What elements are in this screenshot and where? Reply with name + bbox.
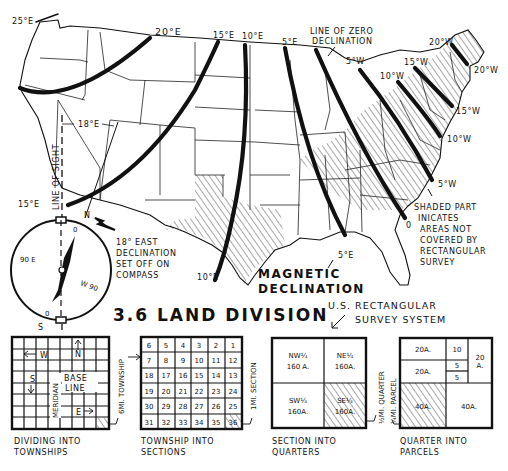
svg-text:33: 33 bbox=[179, 419, 188, 427]
svg-text:26: 26 bbox=[212, 403, 221, 411]
label-10w-right: 10°W bbox=[447, 135, 472, 144]
parcel-e: 5 bbox=[455, 374, 459, 382]
label-e: E bbox=[76, 408, 82, 417]
parcel-a: 20A. bbox=[415, 346, 431, 354]
svg-text:23: 23 bbox=[212, 388, 221, 396]
compass-note-4: COMPASS bbox=[116, 271, 159, 280]
svg-text:INICATES: INICATES bbox=[418, 214, 459, 223]
label-20w-top: 20°W bbox=[429, 38, 454, 47]
svg-text:SHADED PART: SHADED PART bbox=[414, 203, 477, 212]
svg-text:13: 13 bbox=[229, 372, 238, 380]
svg-text:21: 21 bbox=[179, 388, 188, 396]
parcel-d: 5 bbox=[455, 362, 459, 370]
svg-text:22: 22 bbox=[195, 388, 204, 396]
label-10e-bottom: 10°E bbox=[197, 273, 219, 282]
svg-text:28: 28 bbox=[179, 403, 188, 411]
label-s: S bbox=[30, 375, 36, 384]
svg-text:SURVEY: SURVEY bbox=[420, 258, 455, 267]
caption-parcels-1: QUARTER INTO bbox=[400, 437, 467, 446]
label-15e-top: 15°E bbox=[213, 31, 235, 40]
quarter-ne-area: 160A. bbox=[335, 363, 355, 371]
panel-townships: W N S E BASE LINE MERIDIAN 6MI. TOWNSHIP… bbox=[12, 337, 126, 457]
svg-text:2: 2 bbox=[214, 342, 218, 350]
label-5e-top: 5°E bbox=[282, 38, 298, 47]
parcel-h: 40A. bbox=[461, 403, 477, 411]
label-meridian: MERIDIAN bbox=[52, 383, 60, 418]
parcel-f-top: 20 bbox=[476, 354, 485, 362]
svg-text:32: 32 bbox=[162, 419, 171, 427]
svg-text:15: 15 bbox=[195, 372, 204, 380]
label-15e-left: 15°E bbox=[18, 200, 40, 209]
subtitle-line-2: SURVEY SYSTEM bbox=[355, 314, 446, 325]
label-5w-right: 5°W bbox=[438, 180, 457, 189]
caption-parcels-2: PARCELS bbox=[400, 448, 439, 457]
magnetic-declination-title-2: DECLINATION bbox=[258, 282, 365, 296]
label-15w-top: 15°W bbox=[404, 58, 429, 67]
svg-text:29: 29 bbox=[162, 403, 171, 411]
quarter-sw-area: 160A. bbox=[288, 408, 308, 416]
svg-text:5: 5 bbox=[164, 342, 168, 350]
label-20w-right: 20°W bbox=[474, 66, 499, 75]
svg-text:25: 25 bbox=[229, 403, 238, 411]
line-of-sight-label: LINE OF SIGHT bbox=[52, 144, 61, 210]
parcel-c: 20A. bbox=[415, 368, 431, 376]
svg-text:24: 24 bbox=[229, 388, 238, 396]
shaded-area-note: SHADED PART INICATES AREAS NOT COVERED B… bbox=[414, 203, 486, 267]
quarter-ne-name: NE¼ bbox=[337, 352, 354, 360]
svg-text:18: 18 bbox=[145, 372, 154, 380]
compass-zero-bottom: 0 bbox=[45, 310, 49, 318]
caption-sections-1: TOWNSHIP INTO bbox=[140, 437, 214, 446]
svg-text:10: 10 bbox=[195, 357, 204, 365]
svg-text:36: 36 bbox=[229, 419, 238, 427]
svg-text:4: 4 bbox=[181, 342, 186, 350]
label-15w-right: 15°W bbox=[456, 107, 481, 116]
svg-text:27: 27 bbox=[195, 403, 204, 411]
svg-text:19: 19 bbox=[145, 388, 154, 396]
svg-text:34: 34 bbox=[195, 419, 204, 427]
panel-parcels: 20A. 10 20A. 5 5 20 A. 40A. 40A. ¼MI. PA… bbox=[390, 338, 492, 457]
shaded-texas-region bbox=[165, 175, 285, 282]
zero-line-label-2: DECLINATION bbox=[312, 37, 373, 46]
svg-text:9: 9 bbox=[181, 357, 185, 365]
declination-angle-label: 18°E bbox=[78, 120, 100, 129]
caption-townships-2: TOWNSHIPS bbox=[13, 448, 68, 457]
svg-text:12: 12 bbox=[229, 357, 238, 365]
compass-note-3: SET OFF ON bbox=[116, 260, 170, 269]
svg-text:20: 20 bbox=[162, 388, 171, 396]
caption-sections-2: SECTIONS bbox=[141, 448, 186, 457]
svg-text:17: 17 bbox=[162, 372, 171, 380]
svg-text:30: 30 bbox=[145, 403, 154, 411]
svg-text:3: 3 bbox=[197, 342, 201, 350]
quarter-nw-area: 160 A. bbox=[287, 363, 309, 371]
label-zero-bottom: 0 bbox=[406, 221, 412, 230]
svg-text:1: 1 bbox=[231, 342, 235, 350]
label-10w-top: 10°W bbox=[380, 72, 405, 81]
quarter-se-area: 160A. bbox=[335, 408, 355, 416]
label-5w-top: 5°W bbox=[346, 57, 365, 66]
svg-text:31: 31 bbox=[145, 419, 154, 427]
caption-quarters-1: SECTION INTO bbox=[272, 437, 337, 446]
label-base: BASE bbox=[64, 374, 88, 383]
compass-north: N bbox=[84, 211, 91, 220]
parcel-b: 10 bbox=[453, 346, 462, 354]
figure-title: 3.6 LAND DIVISION bbox=[113, 305, 328, 325]
declination-arrow-icon bbox=[95, 218, 115, 230]
compass-east: 90 E bbox=[20, 256, 36, 264]
land-division-figure: 25°E 20°E 15°E 10°E 5°E LINE OF ZERO DEC… bbox=[0, 0, 508, 471]
compass-note-2: DECLINATION bbox=[116, 249, 177, 258]
compass-zero-top: 0 bbox=[73, 226, 77, 234]
side-label-section: 1MI. SECTION bbox=[250, 362, 258, 410]
svg-text:RECTANGULAR: RECTANGULAR bbox=[420, 247, 486, 256]
svg-text:35: 35 bbox=[212, 419, 221, 427]
subtitle-line-1: U.S. RECTANGULAR bbox=[328, 300, 437, 311]
svg-text:14: 14 bbox=[212, 372, 221, 380]
side-label-parcel: ¼MI. PARCEL bbox=[390, 378, 398, 424]
label-25e: 25°E bbox=[12, 17, 34, 26]
caption-townships-1: DIVIDING INTO bbox=[14, 437, 81, 446]
svg-text:COVERED BY: COVERED BY bbox=[420, 236, 478, 245]
svg-text:16: 16 bbox=[179, 372, 188, 380]
label-n: N bbox=[75, 350, 82, 359]
svg-text:8: 8 bbox=[164, 357, 168, 365]
panel-quarters: NW¼ 160 A. NE¼ 160A. SW¼ 160A. SE¼ 160A.… bbox=[272, 338, 386, 457]
label-w: W bbox=[40, 351, 49, 360]
